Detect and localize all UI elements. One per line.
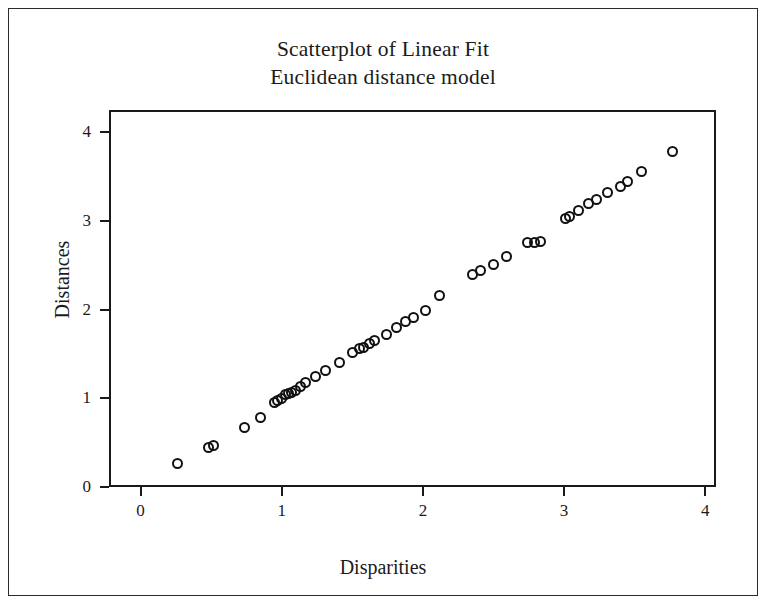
plot-area-frame xyxy=(109,110,716,487)
y-tick-mark xyxy=(100,486,109,488)
x-tick-mark xyxy=(281,487,283,496)
x-tick-label: 0 xyxy=(128,501,154,521)
chart-subtitle-line-2: Euclidean distance model xyxy=(0,64,766,92)
x-tick-label: 4 xyxy=(692,501,718,521)
y-axis-title: Distances xyxy=(51,200,74,360)
x-tick-mark xyxy=(422,487,424,496)
x-tick-mark xyxy=(704,487,706,496)
y-tick-label: 4 xyxy=(65,122,91,142)
y-tick-mark xyxy=(100,397,109,399)
chart-title-block: Scatterplot of Linear Fit Euclidean dist… xyxy=(0,36,766,91)
x-tick-mark xyxy=(563,487,565,496)
y-tick-label: 1 xyxy=(65,388,91,408)
y-tick-mark xyxy=(100,220,109,222)
y-tick-label: 0 xyxy=(65,477,91,497)
chart-title-line-1: Scatterplot of Linear Fit xyxy=(0,36,766,64)
x-tick-mark xyxy=(140,487,142,496)
y-tick-mark xyxy=(100,131,109,133)
x-tick-label: 3 xyxy=(551,501,577,521)
x-axis-title: Disparities xyxy=(0,556,766,579)
y-tick-mark xyxy=(100,309,109,311)
x-tick-label: 2 xyxy=(410,501,436,521)
figure-root: Scatterplot of Linear Fit Euclidean dist… xyxy=(0,0,766,604)
x-tick-label: 1 xyxy=(269,501,295,521)
